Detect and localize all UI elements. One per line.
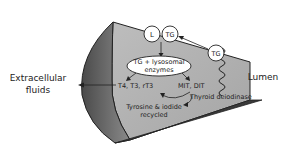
ellipse-label-1: TG + lysosomal bbox=[132, 58, 184, 66]
cell-body bbox=[112, 22, 250, 140]
arrowhead-to-extracellular bbox=[78, 83, 84, 88]
ellipse-label-2: enzymes bbox=[144, 66, 174, 74]
extracellular-label-1: Extracellular bbox=[10, 73, 67, 83]
circle-TG-lumen-label: TG bbox=[210, 50, 220, 58]
deiodinase-label: Thyroid deiodinase bbox=[189, 93, 252, 101]
thyroid-follicle-diagram: L TG TG TG + lysosomal enzymes T4, T3, r… bbox=[0, 0, 290, 151]
mit-dit-label: MIT, DIT bbox=[178, 82, 205, 90]
recycled-label-1: Tyrosine & iodide bbox=[125, 103, 182, 111]
lumen-label: Lumen bbox=[248, 72, 279, 82]
circle-TG-label: TG bbox=[164, 31, 174, 39]
circle-L-label: L bbox=[150, 31, 154, 39]
extracellular-label-2: fluids bbox=[26, 85, 51, 95]
recycled-label-2: recycled bbox=[140, 111, 167, 119]
hormones-label: T4, T3, rT3 bbox=[117, 82, 153, 90]
